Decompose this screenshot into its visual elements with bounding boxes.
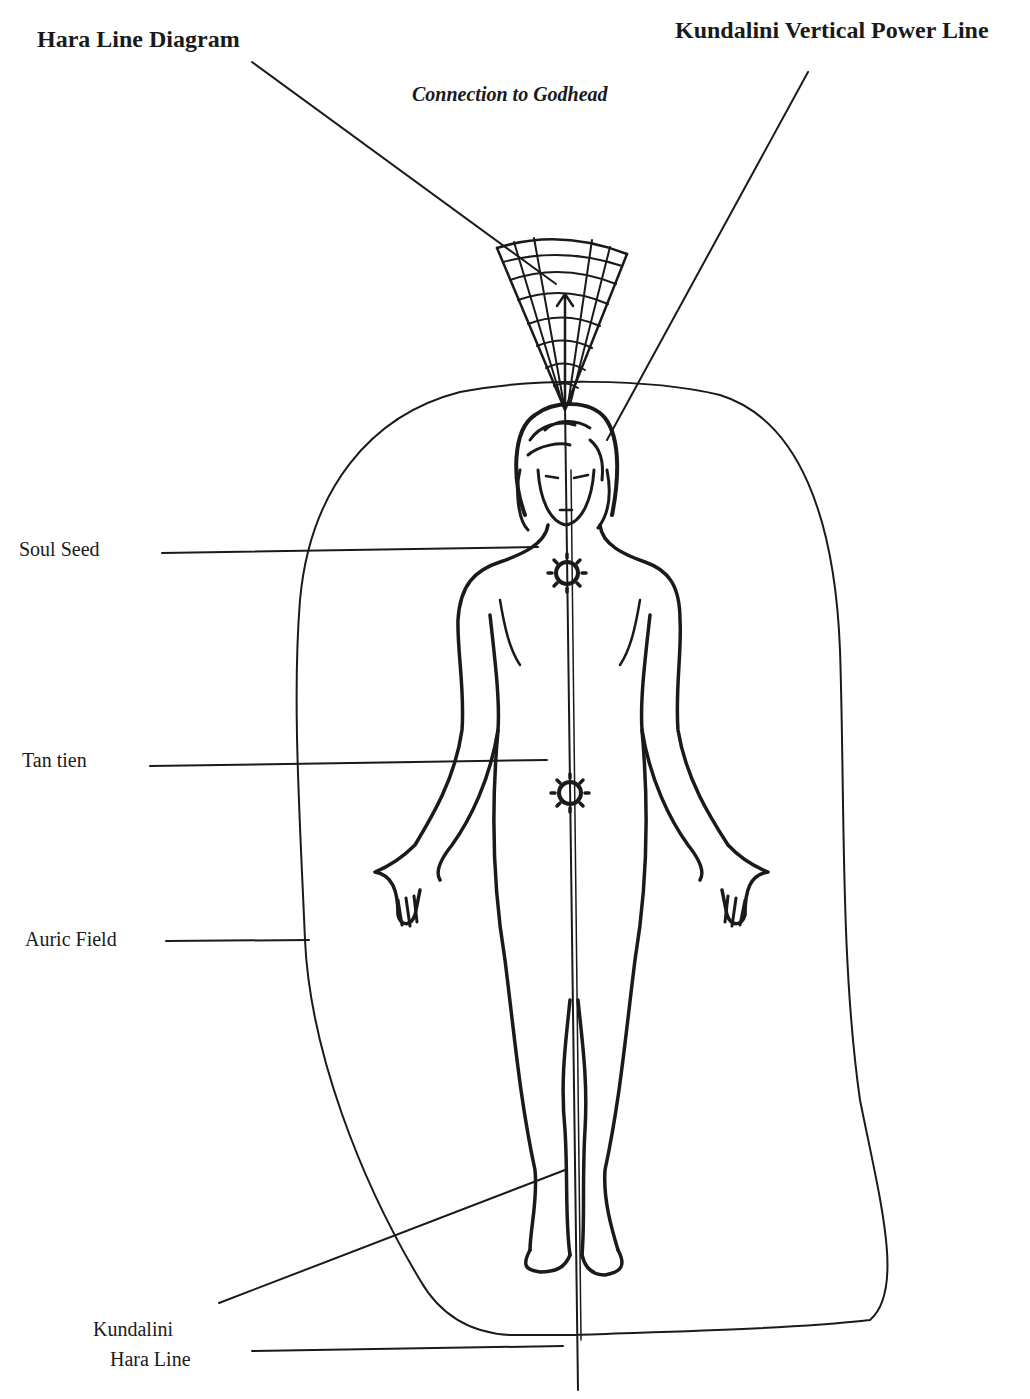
leader-lines bbox=[150, 62, 808, 1351]
soul-seed-label: Soul Seed bbox=[19, 539, 100, 559]
diagram-artwork bbox=[0, 0, 1030, 1399]
auric-field-label: Auric Field bbox=[25, 929, 117, 949]
diagram-title: Hara Line Diagram bbox=[37, 27, 240, 51]
tan-tien-label: Tan tien bbox=[22, 750, 87, 770]
hara-line-label: Hara Line bbox=[110, 1349, 191, 1369]
leader-soul-seed bbox=[162, 547, 538, 553]
leader-kundalini-vertical bbox=[607, 72, 808, 440]
leader-kundalini bbox=[219, 1170, 565, 1303]
connection-to-godhead-label: Connection to Godhead bbox=[412, 84, 608, 104]
leader-hara-line bbox=[252, 1346, 563, 1351]
auric-field-outline bbox=[297, 382, 888, 1335]
kundalini-vertical-power-line-label: Kundalini Vertical Power Line bbox=[675, 18, 989, 42]
kundalini-label: Kundalini bbox=[93, 1319, 173, 1339]
leader-tan-tien bbox=[150, 760, 547, 766]
leader-auric-field bbox=[166, 940, 309, 941]
